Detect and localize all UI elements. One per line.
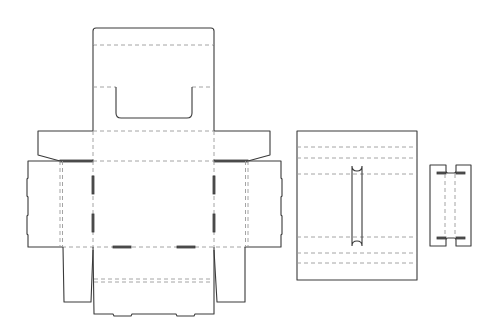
- insert-tab-top-right: [456, 172, 465, 174]
- left-dust-flap: [38, 131, 93, 161]
- left-lock-slot-1: [92, 176, 94, 194]
- insert-tab-top-left: [437, 172, 446, 174]
- insert-tab-bottom-left: [437, 237, 446, 239]
- top-lid-flap: [93, 28, 214, 45]
- bottom-lock-slot-2: [177, 246, 195, 248]
- divider-outline: [297, 131, 417, 280]
- bottom-panel: [93, 247, 214, 316]
- left-flap-tab: [60, 160, 93, 162]
- right-dust-flap: [214, 131, 270, 161]
- divider-slot: [352, 166, 362, 246]
- right-lock-slot-1: [213, 176, 215, 194]
- left-side-panel: [27, 161, 63, 247]
- insert-strip: [430, 165, 471, 246]
- handle-cutout: [116, 87, 192, 118]
- bottom-lock-slot-1: [113, 246, 131, 248]
- bottom-left-flap: [63, 247, 93, 302]
- main-box-blank: [27, 28, 282, 316]
- right-lock-slot-2: [213, 214, 215, 232]
- divider-panel: [297, 131, 417, 280]
- right-flap-tab: [214, 160, 248, 162]
- dieline-diagram: [0, 0, 500, 336]
- bottom-right-flap: [214, 247, 245, 302]
- right-side-panel: [245, 161, 282, 247]
- insert-outline: [430, 165, 471, 246]
- left-lock-slot-2: [92, 214, 94, 232]
- insert-tab-bottom-right: [456, 237, 465, 239]
